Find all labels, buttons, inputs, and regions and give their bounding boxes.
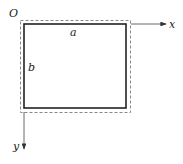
plate-diagram: O x y a b [0, 0, 183, 164]
width-label-a: a [70, 26, 77, 39]
x-axis-label: x [169, 18, 176, 31]
height-label-b: b [28, 61, 35, 74]
y-axis-label: y [12, 140, 20, 153]
origin-label: O [9, 7, 18, 20]
